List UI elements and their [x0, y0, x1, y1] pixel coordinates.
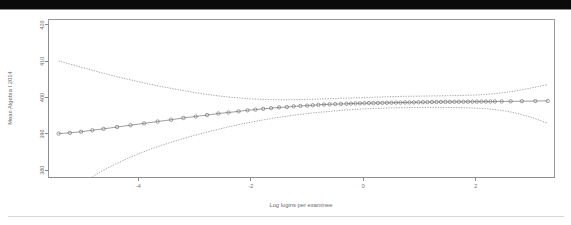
y-axis-tick-label: 420 [39, 20, 45, 29]
y-axis-ticks: 380390400410420 [39, 20, 49, 174]
fitted-mean-line [59, 101, 548, 134]
page-horizontal-rule [8, 216, 564, 217]
lower-confidence-band [92, 107, 547, 176]
y-axis-tick-label: 410 [39, 57, 45, 66]
x-axis-tick-label: 0 [362, 183, 365, 189]
y-axis-title: Mean Algebra I 2014 [7, 70, 13, 124]
scatter-plot: 380390400410420 -4-202 Log logins per ex… [0, 10, 571, 216]
y-axis-tick-label: 400 [39, 93, 45, 102]
scan-top-band [0, 0, 571, 9]
x-axis-title: Log logins per examinee [269, 202, 332, 208]
y-axis-tick-label: 390 [39, 129, 45, 138]
data-point-markers [57, 99, 550, 135]
y-axis-tick-label: 380 [39, 166, 45, 175]
x-axis-ticks: -4-202 [49, 178, 555, 189]
scanned-page: 380390400410420 -4-202 Log logins per ex… [0, 0, 571, 225]
chart-figure: 380390400410420 -4-202 Log logins per ex… [0, 10, 571, 216]
ci-lower-path [92, 107, 547, 176]
fitted-mean-path [59, 101, 548, 134]
ci-upper-path [59, 61, 548, 100]
upper-confidence-band [59, 61, 548, 100]
x-axis-tick-label: -2 [249, 183, 254, 189]
plot-area-border [49, 20, 555, 178]
x-axis-tick-label: -4 [136, 183, 141, 189]
x-axis-tick-label: 2 [474, 183, 477, 189]
